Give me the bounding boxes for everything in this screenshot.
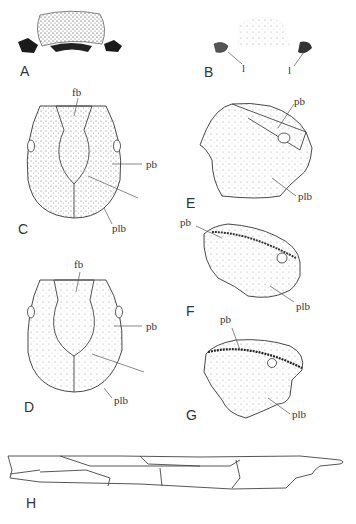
panel-label-b: B: [204, 64, 213, 80]
label-pb: pb: [146, 158, 158, 170]
dark-rim: [50, 43, 92, 52]
panel-label-f: F: [186, 303, 195, 319]
panel-label-e: E: [186, 195, 195, 211]
panel-label-g: G: [186, 407, 197, 423]
label-l-right: l: [288, 64, 291, 76]
plate-outline: [200, 103, 312, 198]
right-lateral-piece: [104, 40, 122, 52]
label-plb: plb: [296, 300, 311, 312]
label-pb: pb: [180, 216, 192, 228]
plate-drawing: [37, 11, 104, 46]
figure-canvas: A l l B fb pb plb C fb pb: [0, 0, 356, 524]
label-fb: fb: [74, 258, 84, 270]
label-plb: plb: [112, 222, 127, 234]
panel-label-d: D: [24, 399, 34, 415]
label-plb: plb: [114, 394, 129, 406]
panel-label-c: C: [18, 221, 28, 237]
plate-outline: [28, 280, 122, 392]
panel-c: fb pb plb C: [18, 86, 158, 237]
left-lateral-piece: [214, 42, 228, 52]
right-lateral-piece: [298, 42, 312, 54]
left-lateral-piece: [18, 38, 38, 53]
label-l-left: l: [242, 62, 245, 74]
panel-f: pb plb F: [180, 216, 311, 319]
bone-outline: [8, 456, 343, 489]
label-pb: pb: [146, 320, 158, 332]
panel-d: fb pb plb D: [24, 258, 158, 415]
panel-h: H: [8, 456, 343, 511]
label-plb: plb: [292, 408, 307, 420]
panel-label-h: H: [26, 495, 36, 511]
label-plb: plb: [298, 190, 313, 202]
faint-plate: [238, 17, 290, 46]
panel-b: l l B: [204, 17, 312, 80]
panel-a: A: [18, 11, 122, 79]
panel-g: pb plb G: [186, 313, 307, 423]
panel-e: pb plb E: [186, 95, 313, 211]
label-pb: pb: [220, 313, 232, 325]
label-pb: pb: [294, 95, 306, 107]
label-fb: fb: [72, 86, 82, 98]
panel-label-a: A: [20, 63, 30, 79]
